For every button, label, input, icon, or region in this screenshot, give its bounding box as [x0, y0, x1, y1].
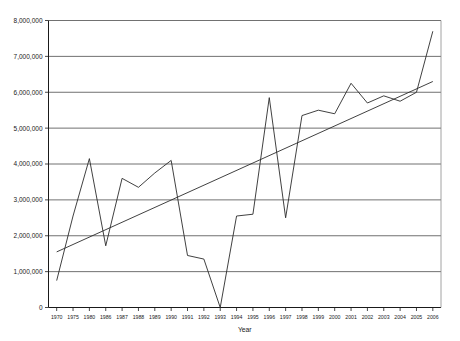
xtick-label: 1986: [100, 314, 112, 320]
xtick-label: 2006: [427, 314, 439, 320]
xtick-label: 2003: [378, 314, 390, 320]
xtick-label: 1996: [264, 314, 276, 320]
xtick-label: 1970: [51, 314, 63, 320]
ytick-marks-group: [45, 21, 49, 308]
xtick-label: 2001: [345, 314, 357, 320]
xtick-label: 1993: [214, 314, 226, 320]
xtick-marks-group: [57, 308, 433, 312]
xtick-labels-group: 1970197519801986198719881989199019911992…: [51, 314, 439, 320]
xtick-label: 1995: [247, 314, 259, 320]
xtick-label: 1994: [231, 314, 243, 320]
ytick-label: 0: [39, 304, 43, 311]
ytick-label: 2,000,000: [14, 232, 43, 239]
xtick-label: 1990: [165, 314, 177, 320]
ytick-label: 7,000,000: [14, 53, 43, 60]
xtick-label: 1998: [296, 314, 308, 320]
ytick-label: 6,000,000: [14, 89, 43, 96]
gridlines-group: [49, 21, 442, 272]
xtick-label: 1997: [280, 314, 292, 320]
trendline: [57, 81, 433, 251]
ytick-label: 1,000,000: [14, 268, 43, 275]
x-axis-title: Year: [238, 326, 252, 333]
xtick-label: 2004: [394, 314, 406, 320]
chart-canvas: 01,000,0002,000,0003,000,0004,000,0005,0…: [0, 0, 460, 341]
xtick-label: 1999: [313, 314, 325, 320]
xtick-label: 1975: [67, 314, 79, 320]
xtick-label: 1987: [116, 314, 128, 320]
axis-title-group: Year: [238, 326, 252, 333]
ytick-label: 8,000,000: [14, 17, 43, 24]
ytick-label: 3,000,000: [14, 196, 43, 203]
xtick-label: 2002: [362, 314, 374, 320]
xtick-label: 2005: [411, 314, 423, 320]
xtick-label: 1992: [198, 314, 210, 320]
trendline-group: [57, 81, 433, 251]
xtick-label: 1988: [133, 314, 145, 320]
xtick-label: 2000: [329, 314, 341, 320]
data-series-group: [57, 31, 433, 307]
line-chart: 01,000,0002,000,0003,000,0004,000,0005,0…: [0, 0, 460, 341]
xtick-label: 1991: [182, 314, 194, 320]
data-series-line: [57, 31, 433, 307]
xtick-label: 1989: [149, 314, 161, 320]
ytick-label: 5,000,000: [14, 125, 43, 132]
ytick-labels-group: 01,000,0002,000,0003,000,0004,000,0005,0…: [14, 17, 43, 311]
xtick-label: 1980: [84, 314, 96, 320]
ytick-label: 4,000,000: [14, 160, 43, 167]
